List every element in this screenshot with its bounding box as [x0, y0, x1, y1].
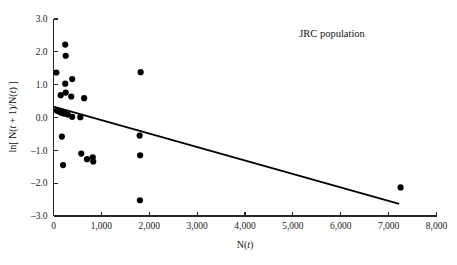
chart-figure: –3.0–2.0–1.00.01.02.03.001,0002,0003,000… — [0, 0, 457, 265]
y-tick-label: –2.0 — [30, 178, 48, 188]
regression-fit-line — [54, 107, 400, 204]
y-axis-title: ln[ N(t + 1)/N(t) ] — [7, 81, 19, 152]
x-tick-label: 0 — [51, 221, 56, 231]
y-axis-title-mid: + 1)/N( — [7, 93, 19, 126]
x-tick-label: 2,000 — [139, 221, 161, 231]
data-point — [397, 184, 403, 190]
y-tick-label: 3.0 — [36, 14, 48, 24]
y-axis-title-post: ) ] — [7, 81, 19, 90]
x-axis-title-pre: N( — [237, 239, 248, 251]
data-point — [81, 95, 87, 101]
data-point — [69, 76, 75, 82]
data-point — [77, 114, 83, 120]
data-point — [137, 132, 143, 138]
data-point — [62, 81, 68, 87]
x-axis-title-post: ) — [250, 239, 253, 251]
data-point — [53, 69, 59, 75]
data-point — [90, 158, 96, 164]
plot-title: JRC population — [299, 28, 365, 39]
scatter-plot: –3.0–2.0–1.00.01.02.03.001,0002,0003,000… — [0, 0, 457, 265]
x-tick-label: 5,000 — [282, 221, 304, 231]
data-point — [137, 197, 143, 203]
x-tick-label: 4,000 — [234, 221, 256, 231]
data-point — [62, 42, 68, 48]
data-point — [60, 162, 66, 168]
data-point — [69, 114, 75, 120]
plot-axes — [54, 19, 437, 216]
data-point — [59, 133, 65, 139]
y-tick-label: –3.0 — [30, 211, 48, 221]
plot-titles: JRC populationN(t)ln[ N(t + 1)/N(t) ] — [7, 28, 366, 251]
y-axis-title-pre: ln[ N( — [7, 128, 19, 153]
x-tick-label: 1,000 — [91, 221, 113, 231]
x-axis-title: N(t) — [237, 239, 254, 251]
data-point — [138, 69, 144, 75]
x-tick-label: 3,000 — [186, 221, 208, 231]
axis-tick-labels: –3.0–2.0–1.00.01.02.03.001,0002,0003,000… — [30, 14, 448, 230]
data-point — [137, 152, 143, 158]
regression-line — [54, 107, 400, 204]
data-point — [63, 53, 69, 59]
x-tick-label: 6,000 — [330, 221, 352, 231]
x-tick-label: 7,000 — [378, 221, 400, 231]
axis-ticks — [54, 19, 437, 216]
x-tick-label: 8,000 — [426, 221, 448, 231]
y-tick-label: 0.0 — [36, 113, 48, 123]
y-tick-label: 1.0 — [36, 80, 48, 90]
data-point — [84, 156, 90, 162]
data-point — [78, 151, 84, 157]
data-point — [68, 93, 74, 99]
y-tick-label: 2.0 — [36, 47, 48, 57]
y-tick-label: –1.0 — [30, 146, 48, 156]
data-points — [53, 42, 403, 204]
data-point — [63, 89, 69, 95]
